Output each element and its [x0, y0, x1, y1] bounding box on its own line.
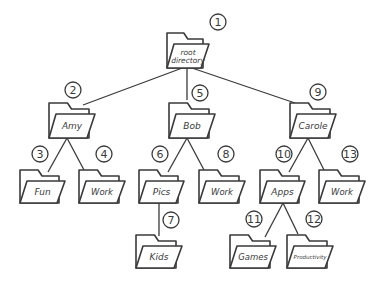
folder-node-8-work[interactable]: Work8	[199, 146, 245, 203]
folder-label: Kids	[150, 252, 169, 262]
svg-text:7: 7	[168, 214, 175, 227]
folder-label: Carole	[298, 121, 328, 131]
folder-node-13-work[interactable]: Work13	[319, 146, 365, 203]
folder-label: Games	[238, 252, 268, 262]
node-number-badge: 10	[276, 146, 292, 162]
svg-text:11: 11	[247, 213, 261, 226]
node-number-badge: 2	[65, 82, 81, 98]
svg-text:13: 13	[343, 148, 357, 161]
svg-text:2: 2	[70, 84, 77, 97]
svg-text:12: 12	[307, 213, 321, 226]
folder-label: Bob	[183, 121, 201, 131]
node-number-badge: 13	[342, 146, 358, 162]
folder-label: Productivity	[294, 254, 328, 261]
svg-text:1: 1	[215, 16, 222, 29]
folder-label: Work	[331, 187, 354, 197]
svg-text:4: 4	[101, 148, 108, 161]
node-number-badge: 12	[306, 211, 322, 227]
svg-text:3: 3	[37, 148, 44, 161]
node-number-badge: 7	[163, 212, 179, 228]
svg-text:5: 5	[197, 87, 204, 100]
directory-tree-diagram: rootdirectory1Amy2Bob5Carole9Fun3Work4Pi…	[0, 0, 387, 283]
tree-edge-10-12	[283, 203, 298, 234]
folder-node-2-amy[interactable]: Amy2	[49, 82, 95, 138]
node-number-badge: 9	[310, 84, 326, 100]
folder-label: Pics	[153, 187, 171, 197]
node-number-badge: 11	[246, 211, 262, 227]
node-number-badge: 5	[192, 85, 208, 101]
folder-node-12-productivity[interactable]: Productivity12	[287, 211, 333, 268]
svg-text:10: 10	[277, 148, 291, 161]
node-number-badge: 1	[210, 14, 226, 30]
folder-node-9-carole[interactable]: Carole9	[290, 84, 336, 138]
tree-edge-1-2	[83, 67, 185, 105]
folder-label: Work	[211, 187, 234, 197]
folder-node-1-root-directory[interactable]: rootdirectory1	[167, 14, 226, 68]
svg-text:6: 6	[157, 148, 164, 161]
tree-edge-5-6	[168, 138, 187, 172]
folder-node-11-games[interactable]: Games11	[230, 211, 276, 268]
tree-edge-2-3	[48, 138, 67, 172]
svg-text:8: 8	[223, 148, 230, 161]
node-number-badge: 3	[32, 146, 48, 162]
folder-node-4-work[interactable]: Work4	[79, 146, 125, 203]
svg-text:9: 9	[315, 86, 322, 99]
node-number-badge: 8	[218, 146, 234, 162]
folder-label: Work	[91, 187, 114, 197]
tree-edge-5-8	[187, 138, 204, 170]
folder-label: Amy	[61, 121, 83, 131]
tree-nodes: rootdirectory1Amy2Bob5Carole9Fun3Work4Pi…	[20, 14, 365, 268]
node-number-badge: 4	[96, 146, 112, 162]
tree-edge-10-11	[265, 203, 283, 237]
folder-label: Fun	[34, 187, 51, 197]
tree-edge-9-13	[308, 138, 324, 170]
folder-node-5-bob[interactable]: Bob5	[169, 85, 215, 138]
folder-label: Apps	[270, 187, 294, 197]
node-number-badge: 6	[152, 146, 168, 162]
tree-edge-2-4	[67, 138, 84, 170]
